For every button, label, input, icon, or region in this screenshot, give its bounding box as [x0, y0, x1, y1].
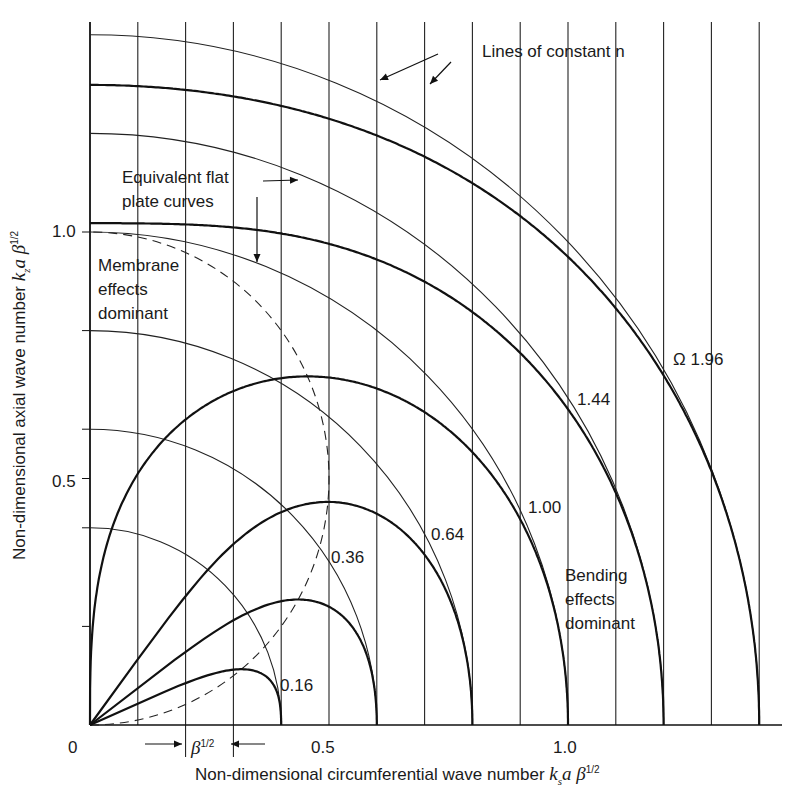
x-tick-1-0: 1.0	[553, 738, 577, 758]
arrow-flat-plate-1-head	[290, 177, 298, 184]
arrow-beta-right-head	[231, 741, 239, 748]
annotation-membrane-line3: dominant	[98, 304, 168, 324]
annotation-flat-plate-line1: Equivalent flat	[122, 168, 229, 188]
x-axis-label: Non-dimensional circumferential wave num…	[195, 763, 600, 787]
annotation-membrane-line2: effects	[98, 280, 148, 300]
annotation-bending-line2: effects	[565, 590, 615, 610]
arrow-beta-left-head	[174, 741, 182, 748]
curve-label-omega-064: 0.64	[431, 525, 464, 545]
annotation-lines-constant-n: Lines of constant n	[482, 42, 625, 62]
chart-canvas	[0, 0, 798, 804]
curve-label-omega-016: 0.16	[280, 676, 313, 696]
arrow-constant-n-1	[380, 54, 438, 80]
x-tick-0: 0	[68, 738, 77, 758]
y-axis-label: Non-dimensional axial wave number kza β1…	[8, 231, 32, 560]
annotation-membrane-line1: Membrane	[98, 256, 179, 276]
curve-label-omega-100: 1.00	[528, 498, 561, 518]
beta-half-annotation: β1/2	[191, 734, 214, 759]
annotation-bending-line3: dominant	[565, 614, 635, 634]
annotation-flat-plate-line2: plate curves	[122, 192, 214, 212]
y-tick-0-5: 0.5	[52, 472, 76, 492]
y-tick-1-0: 1.0	[52, 222, 76, 242]
curve-label-omega-196: Ω 1.96	[673, 350, 724, 370]
curve-label-omega-144: 1.44	[577, 390, 610, 410]
curve-label-omega-036: 0.36	[331, 548, 364, 568]
arrow-flat-plate-2-head	[254, 254, 261, 262]
annotation-bending-line1: Bending	[565, 566, 627, 586]
x-tick-0-5: 0.5	[311, 738, 335, 758]
